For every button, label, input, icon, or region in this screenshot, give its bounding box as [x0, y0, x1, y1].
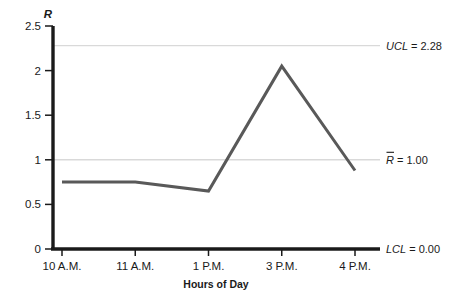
control-limit-ucl: UCL= 2.28 [386, 40, 442, 52]
control-limit-label: LCL= 0.00 [386, 243, 440, 255]
y-tick-labels: 00.511.522.5 [25, 20, 41, 255]
control-limit-value: = 1.00 [397, 154, 428, 166]
y-tick-label: 1.5 [25, 109, 41, 121]
control-limit-value: = 2.28 [411, 40, 442, 52]
gridlines [53, 46, 380, 160]
data-series-line [62, 66, 355, 191]
x-tick-labels: 10 A.M.11 A.M.1 P.M.3 P.M.4 P.M. [43, 260, 371, 272]
x-tick-label: 4 P.M. [339, 260, 371, 272]
x-tick-label: 3 P.M. [266, 260, 298, 272]
control-limit-value: = 0.00 [409, 243, 440, 255]
control-limit-label: UCL= 2.28 [386, 40, 442, 52]
x-axis-title: Hours of Day [183, 278, 249, 290]
control-limit-symbol: UCL [386, 40, 408, 52]
range-control-chart: 00.511.522.5 10 A.M.11 A.M.1 P.M.3 P.M.4… [0, 0, 457, 298]
y-tick-label: 2 [35, 65, 41, 77]
x-tick-label: 1 P.M. [193, 260, 225, 272]
y-tick-label: 2.5 [25, 20, 41, 32]
control-limit-symbol: R [386, 154, 394, 166]
control-limit-lcl: LCL= 0.00 [386, 243, 440, 255]
y-axis-label: R [44, 8, 53, 20]
x-tick-label: 10 A.M. [43, 260, 82, 272]
control-limit-labels: UCL= 2.28R= 1.00LCL= 0.00 [386, 40, 442, 255]
y-tick-label: 0 [35, 243, 41, 255]
y-tick-label: 1 [35, 154, 41, 166]
chart-canvas: 00.511.522.5 10 A.M.11 A.M.1 P.M.3 P.M.4… [0, 0, 457, 298]
x-tick-label: 11 A.M. [116, 260, 154, 272]
control-limit-symbol: LCL [386, 243, 406, 255]
y-tick-label: 0.5 [25, 198, 41, 210]
control-limit-center: R= 1.00 [386, 152, 428, 166]
control-limit-label: R= 1.00 [386, 154, 428, 166]
